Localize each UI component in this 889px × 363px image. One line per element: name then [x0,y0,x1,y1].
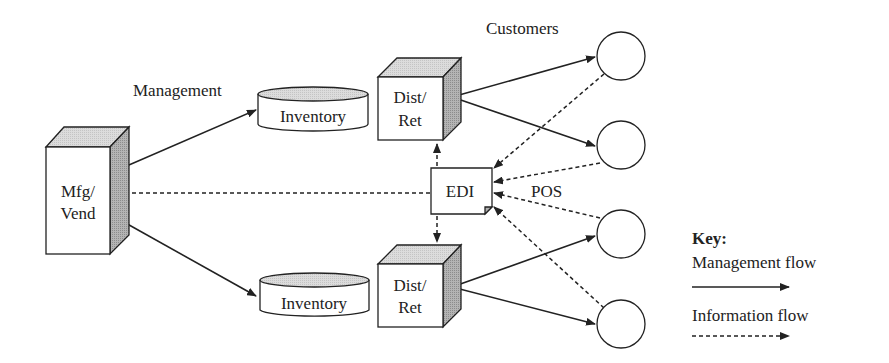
dist-ret-bottom-node: Dist/ Ret [378,245,461,327]
inventory-bottom-lid [260,273,369,287]
arrow-dist-bottom-to-customer-3 [452,236,595,287]
management-label: Management [133,81,222,100]
inventory-top-node: Inventory [258,87,368,131]
dist-ret-top-label-line1: Dist/ [393,88,426,107]
dist-ret-top-node: Dist/ Ret [378,58,461,140]
arrow-dist-bottom-to-customer-4 [452,287,595,324]
customers-label: Customers [486,19,559,38]
dist-ret-bottom-label-line2: Ret [398,298,422,317]
edi-folded-corner-icon [485,207,492,214]
mfg-vend-side-face [110,127,129,254]
legend-title: Key: [692,229,727,248]
inventory-top-lid [258,87,368,101]
edi-node: EDI [431,168,492,214]
arrow-customer-4-to-edi [494,207,604,308]
mfg-vend-label-line2: Vend [61,204,96,223]
inventory-bottom-label: Inventory [281,294,348,313]
customer-nodes [597,32,645,348]
supply-chain-diagram: Mfg/ Vend Inventory Inventory Dist/ Ret … [0,0,889,363]
legend-management-flow-label: Management flow [692,253,817,272]
customer-circle-3 [597,210,645,258]
arrow-dist-top-to-customer-1 [452,57,595,97]
inventory-bottom-node: Inventory [260,273,369,316]
mfg-vend-node: Mfg/ Vend [46,127,129,254]
pos-label: POS [531,182,562,201]
arrow-mfg-to-inventory-bottom [122,221,256,296]
dist-ret-bottom-label-line1: Dist/ [393,276,426,295]
customer-circle-2 [597,121,645,169]
dist-ret-top-front-face [378,77,443,140]
arrow-dist-top-to-customer-2 [452,97,595,146]
dist-ret-bottom-front-face [378,264,443,327]
customer-circle-4 [597,300,645,348]
mfg-vend-label-line1: Mfg/ [61,182,95,201]
edi-label: EDI [446,182,475,201]
arrow-customer-2-to-edi [494,163,600,182]
dist-ret-top-label-line2: Ret [398,111,422,130]
legend: Key: Management flow Information flow [692,229,817,336]
arrow-customer-1-to-edi [494,74,604,168]
arrow-mfg-to-inventory-top [122,110,256,168]
legend-information-flow-label: Information flow [692,306,809,325]
customer-circle-1 [597,32,645,80]
inventory-top-label: Inventory [280,107,347,126]
